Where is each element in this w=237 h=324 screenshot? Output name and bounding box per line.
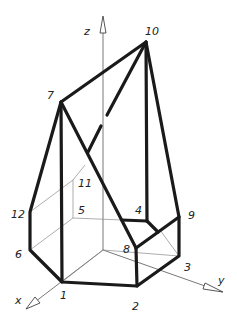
x-axis-arrowhead (26, 297, 40, 309)
vertex-label-11: 11 (78, 177, 92, 190)
vertex-label-12: 12 (11, 208, 25, 221)
visible-edge (61, 102, 62, 282)
visible-edge (122, 220, 147, 221)
visible-edge (146, 42, 147, 221)
visible-edge (147, 221, 158, 232)
vertex-label-5: 5 (78, 204, 85, 217)
vertex-label-6: 6 (15, 248, 22, 261)
y-axis-label: y (217, 274, 225, 287)
z-axis-arrowhead (100, 16, 106, 33)
hidden-edge (160, 230, 179, 256)
x-axis-label: x (14, 294, 22, 307)
vertex-label-9: 9 (188, 209, 195, 222)
z-axis-label: z (83, 25, 90, 38)
visible-edge (88, 126, 101, 152)
visible-edge (61, 102, 136, 248)
vertex-label-3: 3 (184, 261, 191, 274)
hidden-edge (62, 250, 103, 282)
visible-edge (30, 42, 179, 286)
vertex-label-8: 8 (123, 243, 130, 256)
hidden-edge (30, 218, 73, 250)
vertex-label-4: 4 (135, 204, 142, 217)
vertex-label-10: 10 (145, 25, 159, 38)
visible-edge (107, 42, 146, 115)
visible-edge (136, 248, 137, 286)
vertex-label-2: 2 (132, 300, 139, 313)
hidden-edge (103, 250, 179, 256)
vertex-label-1: 1 (60, 289, 67, 302)
vertex-label-7: 7 (47, 89, 54, 102)
isometric-solid-diagram: z x y 1 2 3 4 5 6 7 8 9 10 11 12 (0, 0, 237, 324)
